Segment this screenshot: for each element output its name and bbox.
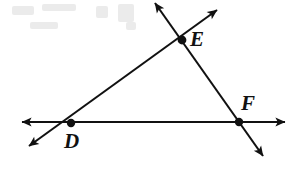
vertex-dot-f xyxy=(235,118,243,126)
geometry-diagram: D E F xyxy=(0,0,291,171)
line-ef-extended xyxy=(155,3,263,156)
vertex-label-f: F xyxy=(241,93,255,114)
lines-group xyxy=(22,3,285,156)
vertex-label-d: D xyxy=(64,131,79,152)
vertex-dot-e xyxy=(178,36,187,45)
vertex-label-e: E xyxy=(190,29,204,50)
line-de-extended xyxy=(29,10,217,146)
geometry-canvas xyxy=(0,0,291,171)
vertex-dots-group xyxy=(67,36,243,128)
vertex-dot-d xyxy=(67,119,75,127)
